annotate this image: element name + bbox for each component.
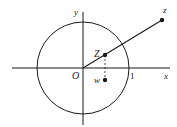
point-z-label: z [162,5,167,15]
point-Z-label: Z [94,48,100,59]
x-axis-label: x [163,71,168,81]
point-Z [103,53,107,57]
unit-label: 1 [130,71,135,81]
point-w [103,78,107,82]
point-w-label: w [94,75,100,85]
y-axis-label: y [73,7,78,17]
origin-label: O [72,70,79,81]
complex-plane-diagram: y x O 1 z Z w [0,0,177,127]
point-z [160,18,164,22]
ray-o-to-z [83,20,162,68]
